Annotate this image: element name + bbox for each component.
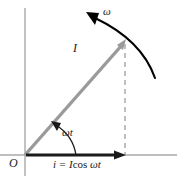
origin-label: O <box>9 157 18 169</box>
phasor-magnitude-label: I <box>73 42 77 54</box>
projection-equation: i = Icos ωt <box>53 159 101 170</box>
rotation-arc-arrowhead <box>86 12 99 25</box>
diagram-canvas <box>0 0 177 179</box>
angle-label: ωt <box>62 127 73 138</box>
phasor-diagram: ω I ωt O i = Icos ωt <box>0 0 177 179</box>
equation-lhs: i = I <box>53 158 73 170</box>
phasor-arrow-shaft <box>25 45 122 155</box>
projection-arrowhead <box>114 151 126 160</box>
equation-arg: ωt <box>90 158 101 170</box>
equation-cos: cos <box>73 158 88 170</box>
angular-velocity-label: ω <box>103 6 111 17</box>
